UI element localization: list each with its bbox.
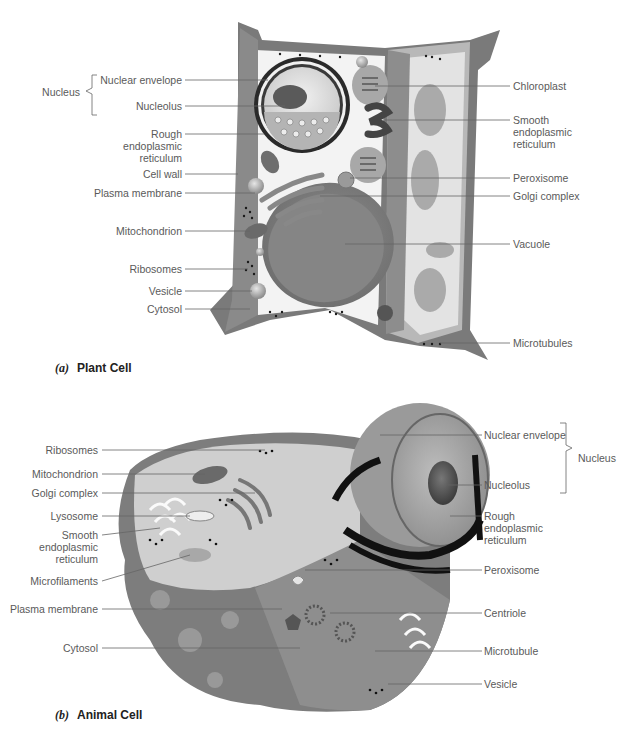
animal-label-nucleolus: Nucleolus [484,479,530,491]
plant-label-cytosol: Cytosol [80,303,182,315]
animal-label-microfilaments: Microfilaments [0,575,98,587]
animal-label-smooth-er: Smooth endoplasmic reticulum [0,529,98,565]
plant-caption-title: Plant Cell [77,361,132,375]
plant-label-cell-wall: Cell wall [80,168,182,180]
animal-label-rough-er: Rough endoplasmic reticulum [484,510,543,546]
plant-cell-illustration [210,22,500,360]
plant-label-vesicle: Vesicle [80,285,182,297]
plant-nucleus-group-label: Nucleus [10,86,80,98]
animal-label-centriole: Centriole [484,607,526,619]
animal-label-lysosome: Lysosome [0,510,98,522]
animal-label-microtubule: Microtubule [484,645,538,657]
plant-label-chloroplast: Chloroplast [513,80,566,92]
animal-label-nuclear-envelope: Nuclear envelope [484,429,566,441]
animal-nucleus-group-label: Nucleus [578,452,616,464]
animal-label-mitochondrion: Mitochondrion [0,468,98,480]
animal-caption-letter: (b) [55,708,69,722]
animal-caption-title: Animal Cell [77,708,142,722]
animal-label-cytosol: Cytosol [0,642,98,654]
plant-label-ribosomes: Ribosomes [80,263,182,275]
plant-label-peroxisome: Peroxisome [513,172,568,184]
animal-label-peroxisome: Peroxisome [484,564,539,576]
cell-structure-figure: Nucleus Nuclear envelope Nucleolus Rough… [0,0,630,731]
plant-label-mitochondrion: Mitochondrion [80,225,182,237]
animal-label-vesicle: Vesicle [484,678,517,690]
plant-label-golgi-complex: Golgi complex [513,190,580,202]
animal-label-golgi-complex: Golgi complex [0,487,98,499]
plant-label-nucleolus: Nucleolus [80,100,182,112]
animal-label-ribosomes: Ribosomes [0,444,98,456]
plant-cell-caption: (a)Plant Cell [55,361,132,376]
animal-label-plasma-membrane: Plasma membrane [0,603,98,615]
plant-label-vacuole: Vacuole [513,238,550,250]
plant-caption-letter: (a) [55,361,69,375]
plant-label-microtubules: Microtubules [513,337,573,349]
animal-cell-illustration [119,403,490,712]
plant-label-nuclear-envelope: Nuclear envelope [80,74,182,86]
plant-label-smooth-er: Smooth endoplasmic reticulum [513,114,572,150]
plant-label-rough-er: Rough endoplasmic reticulum [80,128,182,164]
animal-cell-caption: (b)Animal Cell [55,708,142,723]
plant-label-plasma-membrane: Plasma membrane [60,187,182,199]
